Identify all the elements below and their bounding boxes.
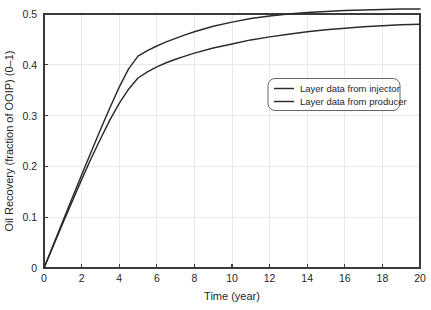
y-tick-label: 0.4 [22, 59, 37, 71]
legend: Layer data from injector Layer data from… [268, 79, 407, 111]
x-tick-label: 12 [264, 272, 276, 284]
x-axis-title: Time (year) [204, 290, 260, 302]
x-tick-label: 8 [191, 272, 197, 284]
x-tick-label: 2 [79, 272, 85, 284]
y-tick-label: 0.3 [22, 110, 37, 122]
x-tick-label: 4 [116, 272, 122, 284]
legend-label-producer: Layer data from producer [300, 96, 407, 107]
y-tick-label: 0.5 [22, 8, 37, 20]
y-tick-label: 0.2 [22, 160, 37, 172]
line-chart-svg: 02468101214161820 00.10.20.30.40.5 Layer… [0, 0, 431, 310]
x-tick-label: 10 [226, 272, 238, 284]
x-tick-label: 14 [301, 272, 313, 284]
y-tick-label: 0 [31, 262, 37, 274]
x-tick-label: 0 [41, 272, 47, 284]
x-tick-label: 20 [414, 272, 426, 284]
chart-figure: 02468101214161820 00.10.20.30.40.5 Layer… [0, 0, 431, 310]
x-tick-label: 18 [377, 272, 389, 284]
legend-label-injector: Layer data from injector [300, 83, 400, 94]
y-axis-title: Oil Recovery (fraction of OOIP) (0–1) [3, 51, 15, 232]
x-tick-label: 16 [339, 272, 351, 284]
x-tick-label: 6 [154, 272, 160, 284]
y-tick-label: 0.1 [22, 211, 37, 223]
